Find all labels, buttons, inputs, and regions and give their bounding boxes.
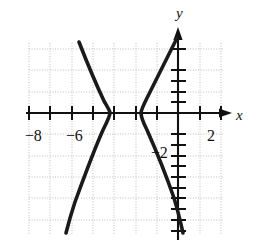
coordinate-plane-svg	[0, 0, 256, 252]
x-tick-label-pos2: 2	[207, 128, 215, 144]
grid-lines	[29, 43, 224, 234]
y-axis-label: y	[176, 6, 183, 21]
x-tick-label-neg6: −6	[66, 128, 83, 144]
y-tick-label-neg2: −2	[151, 145, 168, 161]
x-tick-label-neg8: −8	[25, 128, 42, 144]
x-axis-label: x	[236, 108, 243, 123]
x-axis	[26, 108, 232, 117]
curve-right-branch	[141, 38, 183, 233]
graph-figure: y x −8 −6 2 −2	[0, 0, 256, 252]
